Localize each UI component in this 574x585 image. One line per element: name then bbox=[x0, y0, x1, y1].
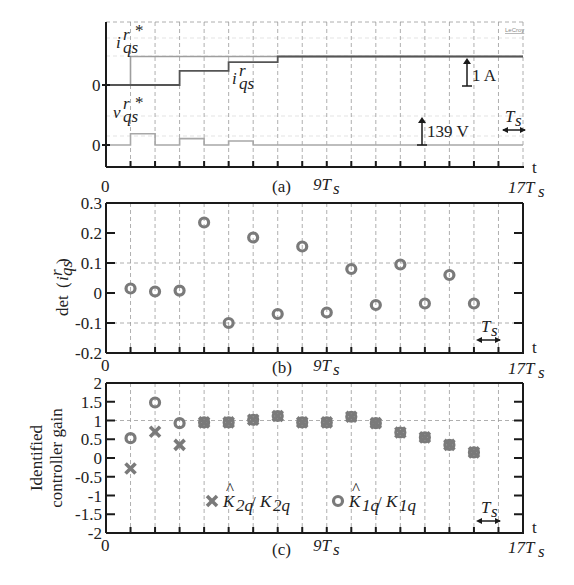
current-scale-marker: 1 A bbox=[462, 58, 497, 86]
trace-iqs-reference bbox=[106, 57, 523, 86]
panel-a-label: (a) bbox=[272, 177, 291, 196]
svg-text:i: i bbox=[232, 69, 237, 88]
panel-b-axes bbox=[106, 203, 524, 353]
panel-b-ticks bbox=[106, 203, 523, 353]
panel-a-scope-traces: i r qs * i r qs v r qs * 0 0 1 A bbox=[92, 21, 545, 201]
svg-text:i: i bbox=[116, 33, 121, 52]
b-y-axis-label: det ( i r qs ) bbox=[47, 258, 76, 316]
svg-text:controller gain: controller gain bbox=[47, 408, 66, 508]
trace-iqs-measured bbox=[106, 57, 523, 86]
panel-c-ticks bbox=[106, 383, 523, 533]
data-point-k1q bbox=[151, 398, 160, 407]
y-tick-label: 0.1 bbox=[81, 254, 102, 273]
y-tick-label: 1 bbox=[94, 412, 103, 431]
svg-text:17T: 17T bbox=[508, 178, 536, 197]
svg-text:139 V: 139 V bbox=[427, 122, 469, 141]
y-tick-label: 1.5 bbox=[81, 393, 102, 412]
svg-text:s: s bbox=[333, 540, 340, 559]
y-tick-label: 0 bbox=[94, 284, 103, 303]
b-x-tick-9Ts: 9T s bbox=[313, 356, 340, 379]
y-tick-label: -0.1 bbox=[75, 314, 102, 333]
svg-text:^: ^ bbox=[226, 479, 234, 498]
y-tick-label: -1.5 bbox=[75, 505, 102, 524]
data-point-det bbox=[249, 233, 258, 242]
y-tick-label: 2 bbox=[94, 374, 103, 393]
svg-text:17T: 17T bbox=[508, 538, 536, 557]
panel-b-y-tick-labels: -0.2-0.100.10.20.3 bbox=[75, 194, 102, 363]
data-point-det bbox=[151, 287, 160, 296]
panel-c-y-tick-labels: -2-1.5-1-0.500.511.52 bbox=[75, 374, 102, 543]
period-marker-a: T s bbox=[502, 107, 526, 133]
label-iqs-ref: i r qs * bbox=[116, 21, 144, 57]
svg-text:1q: 1q bbox=[399, 496, 417, 515]
svg-text:1 A: 1 A bbox=[472, 66, 497, 85]
panel-c-grid bbox=[106, 383, 523, 533]
svg-text:(: ( bbox=[53, 282, 72, 288]
panel-b-grid bbox=[106, 203, 523, 353]
svg-text:9T: 9T bbox=[313, 536, 333, 555]
c-y-axis-label: Identified controller gain bbox=[27, 408, 66, 508]
y-tick-label: 0.2 bbox=[81, 224, 102, 243]
svg-text:v: v bbox=[113, 103, 121, 122]
svg-text:qs: qs bbox=[239, 74, 255, 93]
svg-text:s: s bbox=[538, 542, 545, 561]
svg-text:s: s bbox=[515, 111, 522, 130]
panel-c-label: (c) bbox=[272, 540, 291, 559]
svg-text:K: K bbox=[385, 492, 399, 511]
data-point-det bbox=[200, 218, 209, 227]
svg-text:2q: 2q bbox=[273, 496, 291, 515]
panel-b-determinant: -0.2-0.100.10.20.3 det ( i r qs ) 0 (b) … bbox=[47, 194, 545, 382]
svg-text:^: ^ bbox=[352, 479, 360, 498]
c-x-tick-9Ts: 9T s bbox=[313, 536, 340, 559]
svg-text:9T: 9T bbox=[313, 356, 333, 375]
svg-text:Identified: Identified bbox=[27, 424, 46, 491]
svg-text:9T: 9T bbox=[313, 175, 333, 194]
b-x-axis-label: t bbox=[532, 338, 537, 357]
data-point-k2q bbox=[126, 464, 136, 474]
y-tick-label: 0 bbox=[94, 449, 103, 468]
svg-text:det: det bbox=[53, 295, 72, 316]
panel-b-label: (b) bbox=[272, 358, 292, 377]
panel-c-controller-gain: -2-1.5-1-0.500.511.52 Identified control… bbox=[27, 374, 545, 561]
svg-text:K: K bbox=[259, 492, 273, 511]
label-vqs-ref: v r qs * bbox=[113, 93, 144, 126]
y-tick-label: 0.3 bbox=[81, 194, 102, 213]
b-x-tick-17Ts: 17T s bbox=[508, 359, 545, 382]
period-marker-b: T s bbox=[476, 317, 501, 343]
b-x-tick-0: 0 bbox=[101, 356, 110, 375]
svg-text:s: s bbox=[491, 321, 498, 340]
figure: i r qs * i r qs v r qs * 0 0 1 A bbox=[0, 0, 574, 585]
svg-text:/: / bbox=[377, 493, 382, 512]
svg-text:s: s bbox=[538, 182, 545, 201]
svg-text:): ) bbox=[53, 258, 72, 264]
svg-text:*: * bbox=[135, 21, 144, 40]
data-point-det bbox=[396, 260, 405, 269]
panel-c-axes bbox=[106, 383, 524, 533]
a-x-tick-17Ts: 17T s bbox=[508, 178, 545, 201]
c-x-tick-17Ts: 17T s bbox=[508, 538, 545, 561]
y-tick-label: -1 bbox=[88, 487, 102, 506]
legend-entry-k1q: K ^ 1q / K 1q bbox=[334, 479, 417, 515]
c-x-tick-0: 0 bbox=[101, 536, 110, 555]
y-tick-label: -2 bbox=[88, 524, 102, 543]
svg-text:qs: qs bbox=[123, 38, 139, 57]
a-x-tick-0: 0 bbox=[101, 177, 110, 196]
svg-text:/: / bbox=[251, 493, 256, 512]
period-marker-c: T s bbox=[476, 498, 501, 524]
c-x-axis-label: t bbox=[532, 518, 537, 537]
data-point-det bbox=[322, 308, 331, 317]
svg-text:*: * bbox=[135, 93, 144, 112]
data-point-det bbox=[273, 310, 282, 319]
svg-text:s: s bbox=[538, 363, 545, 382]
y-tick-label: -0.2 bbox=[75, 344, 102, 363]
legend: K ^ 2q / K 2q K ^ 1q / K 1q bbox=[207, 479, 417, 515]
data-point-k1q bbox=[126, 434, 135, 443]
a-x-tick-9Ts: 9T s bbox=[313, 175, 340, 198]
a-zero-label-current: 0 bbox=[92, 76, 101, 95]
svg-text:s: s bbox=[333, 179, 340, 198]
y-tick-label: 0.5 bbox=[81, 430, 102, 449]
data-point-k1q bbox=[175, 419, 184, 428]
a-x-axis-label: t bbox=[532, 158, 537, 177]
svg-text:s: s bbox=[333, 360, 340, 379]
svg-text:s: s bbox=[491, 502, 498, 521]
